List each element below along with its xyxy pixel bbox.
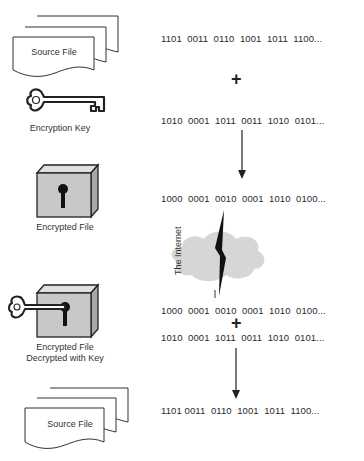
arrow-down-icon-2 [229,348,243,400]
encrypted-file-label: Encrypted File [25,222,105,233]
key-icon [25,86,105,114]
source-file-icon [0,0,130,80]
key-bits: 1010 0001 1011 0011 1010 0101... [161,332,324,343]
plus-sign-2: + [231,314,242,332]
connector-line [213,290,217,300]
cipher-bits: 1000 0001 0010 0001 1010 0100... [161,305,326,316]
decrypted-label-line1: Encrypted File [20,342,110,353]
source-file-label-bottom: Source File [34,419,106,430]
encryption-key-bits: 1010 0001 1011 0011 1010 0101... [161,115,324,126]
source-file-bits: 1101 0011 0110 1001 1011 1100... [161,33,322,44]
plus-sign: + [231,70,242,88]
source-file-icon-bottom [0,370,130,461]
source-file-bits-bottom: 1101 0011 0110 1001 1011 1100... [161,405,320,416]
internet-label: The Internet [173,226,183,275]
decrypted-label-line2: Decrypted with Key [20,353,110,364]
arrow-down-icon [235,130,249,180]
encrypted-file-bits: 1000 0001 0010 0001 1010 0100... [161,193,326,204]
unlocked-box-with-key-icon [10,283,102,339]
encryption-key-label: Encryption Key [20,123,100,134]
locked-box-icon [36,163,102,218]
source-file-label: Source File [18,47,90,58]
lightning-bolt-icon [210,210,230,298]
